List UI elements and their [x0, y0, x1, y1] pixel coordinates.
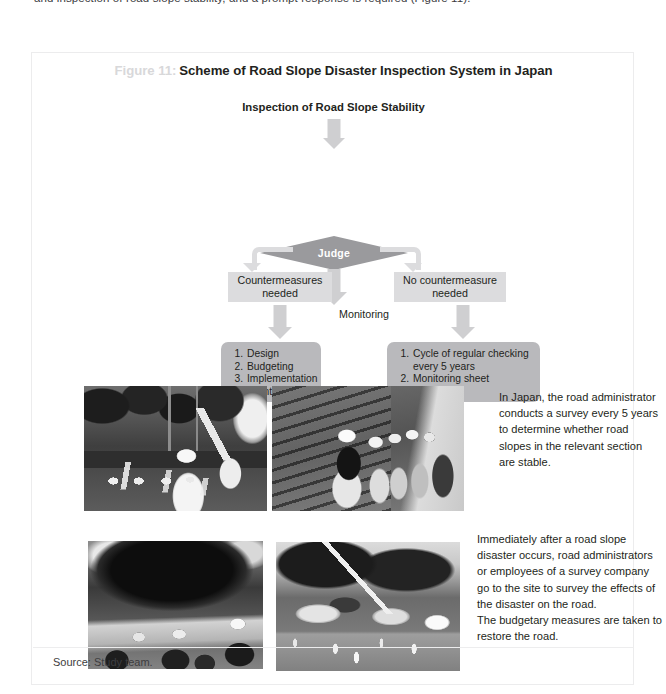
- arrow-right-to-monitoring-actions: [450, 305, 476, 339]
- photo-image: [84, 386, 267, 511]
- list-item: Budgeting: [246, 361, 312, 374]
- arrow-header-to-judge: [321, 119, 347, 149]
- footer-divider: [33, 647, 634, 648]
- arrowhead-right-branch: [404, 263, 422, 272]
- page-top-cut-text: and inspection of road slope stability, …: [34, 0, 634, 5]
- list-item: Implementation: [246, 373, 312, 386]
- process-no-countermeasure-needed: No countermeasure needed: [394, 272, 506, 302]
- photo-image: [272, 386, 464, 511]
- photo-road-clearing-after-rockfall: [272, 532, 464, 678]
- photo-group-inspecting-retaining-wall: [272, 386, 464, 511]
- figure-container: Figure 11:Scheme of Road Slope Disaster …: [31, 52, 634, 685]
- figure-title: Scheme of Road Slope Disaster Inspection…: [179, 63, 552, 78]
- description-survey-cycle: In Japan, the road administrator conduct…: [499, 389, 659, 470]
- flowchart-header-label: Inspection of Road Slope Stability: [32, 101, 635, 113]
- list-item: Design: [246, 348, 312, 361]
- process-countermeasures-needed: Countermeasures needed: [228, 272, 332, 302]
- figure-caption: Figure 11:Scheme of Road Slope Disaster …: [32, 63, 635, 78]
- photo-image: [272, 532, 464, 678]
- list-item: Cycle of regular checking every 5 years: [412, 348, 531, 373]
- arrow-left-to-actions: [267, 305, 293, 339]
- process-no-countermeasure-line2: needed: [432, 287, 468, 299]
- description-disaster-response: Immediately after a road slope disaster …: [477, 531, 662, 644]
- process-no-countermeasure-line1: No countermeasure: [403, 274, 497, 286]
- arrowhead-left-branch: [243, 263, 261, 272]
- photo-road-inspection-worker: [84, 386, 267, 511]
- process-countermeasures-line2: needed: [262, 287, 298, 299]
- monitoring-label: Monitoring: [304, 308, 424, 320]
- process-countermeasures-line1: Countermeasures: [238, 274, 323, 286]
- figure-number-label: Figure 11:: [115, 63, 177, 78]
- source-note: Source: Study team.: [53, 656, 153, 668]
- flowchart: Inspection of Road Slope Stability Judge…: [32, 97, 635, 354]
